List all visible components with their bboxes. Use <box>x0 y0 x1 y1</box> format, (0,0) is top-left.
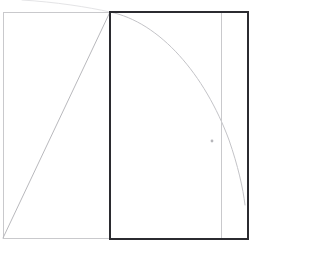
point-marker <box>211 140 214 143</box>
arc-curve <box>110 12 245 205</box>
geometric-figure-canvas <box>0 0 311 254</box>
arc-curve-faint-extension <box>22 0 110 12</box>
figure-root <box>0 0 311 254</box>
left-light-rectangle <box>3 12 110 238</box>
canvas-background <box>0 0 311 254</box>
main-dark-rectangle <box>110 12 248 239</box>
diagonal-hypotenuse <box>3 12 110 238</box>
